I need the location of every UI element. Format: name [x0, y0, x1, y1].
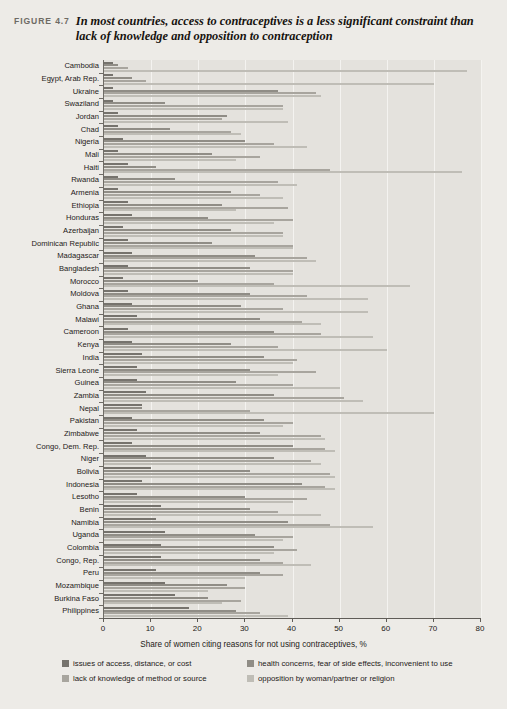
bar-knowledge: [104, 118, 222, 120]
bar-access: [104, 404, 142, 406]
gridline: [340, 60, 341, 618]
category-label: Bolivia: [77, 466, 99, 478]
x-axis-tick: [150, 618, 151, 622]
y-axis-tick: [99, 149, 103, 150]
category-label: Lesotho: [72, 491, 99, 503]
bar-access: [104, 353, 142, 355]
category-label: Indonesia: [66, 479, 99, 491]
figure-page: FIGURE 4.7 In most countries, access to …: [0, 0, 507, 709]
bar-knowledge: [104, 422, 293, 424]
bar-opposition: [104, 514, 321, 516]
bar-opposition: [104, 70, 467, 72]
bar-knowledge: [104, 473, 330, 475]
y-axis-tick: [99, 339, 103, 340]
bar-knowledge: [104, 105, 283, 107]
y-axis-tick: [99, 364, 103, 365]
bar-access: [104, 87, 113, 89]
category-label: Ethiopia: [72, 200, 99, 212]
bar-health: [104, 305, 241, 307]
bar-health: [104, 77, 132, 79]
figure-header: FIGURE 4.7 In most countries, access to …: [14, 14, 493, 44]
bar-access: [104, 265, 128, 267]
category-label: Kenya: [77, 339, 99, 351]
y-axis-tick: [99, 390, 103, 391]
bar-knowledge: [104, 346, 278, 348]
bar-knowledge: [104, 448, 325, 450]
bar-health: [104, 255, 255, 257]
category-label: Namibia: [71, 517, 99, 529]
bar-access: [104, 467, 151, 469]
category-label: Guinea: [75, 377, 100, 389]
x-axis-tick-label: 0: [101, 624, 105, 633]
category-label: Ukraine: [73, 86, 99, 98]
bar-access: [104, 290, 128, 292]
bar-access: [104, 505, 161, 507]
y-axis-tick: [99, 288, 103, 289]
x-axis-tick-label: 10: [146, 624, 155, 633]
bar-knowledge: [104, 283, 274, 285]
legend-swatch-opposition: [247, 675, 254, 682]
bar-opposition: [104, 222, 274, 224]
category-label: Philippines: [62, 605, 99, 617]
category-label: Malawi: [75, 314, 99, 326]
bar-knowledge: [104, 92, 316, 94]
x-axis-tick-label: 60: [381, 624, 390, 633]
bar-health: [104, 584, 227, 586]
y-axis-tick: [99, 555, 103, 556]
bar-opposition: [104, 159, 236, 161]
bar-health: [104, 331, 274, 333]
category-label: Ghana: [76, 301, 99, 313]
bar-opposition: [104, 463, 321, 465]
y-axis-tick: [99, 466, 103, 467]
bar-health: [104, 496, 245, 498]
bar-health: [104, 572, 260, 574]
y-axis-tick: [99, 314, 103, 315]
bar-access: [104, 74, 113, 76]
bar-health: [104, 534, 255, 536]
y-axis-tick: [99, 580, 103, 581]
y-axis-tick: [99, 440, 103, 441]
bar-opposition: [104, 400, 363, 402]
bar-access: [104, 188, 118, 190]
bar-knowledge: [104, 232, 283, 234]
bar-opposition: [104, 615, 288, 617]
bar-access: [104, 607, 189, 609]
y-axis-tick: [99, 567, 103, 568]
gridline: [293, 60, 294, 618]
bar-health: [104, 419, 264, 421]
bar-access: [104, 594, 175, 596]
bar-opposition: [104, 235, 283, 237]
category-label: Bangladesh: [59, 263, 99, 275]
category-label: Egypt, Arab Rep.: [42, 73, 99, 85]
bar-opposition: [104, 285, 410, 287]
bar-health: [104, 267, 250, 269]
bar-access: [104, 138, 123, 140]
x-axis-tick: [480, 618, 481, 622]
bar-opposition: [104, 133, 241, 135]
bar-knowledge: [104, 486, 325, 488]
bar-knowledge: [104, 524, 330, 526]
bar-health: [104, 432, 260, 434]
category-label: Madagascar: [57, 250, 99, 262]
y-axis-tick: [99, 402, 103, 403]
bar-knowledge: [104, 207, 288, 209]
bar-health: [104, 508, 250, 510]
category-label: Mozambique: [56, 580, 99, 592]
legend-swatch-access: [62, 660, 69, 667]
bar-opposition: [104, 336, 373, 338]
bar-access: [104, 366, 137, 368]
y-axis-tick: [99, 276, 103, 277]
bar-opposition: [104, 146, 307, 148]
legend-swatch-health: [247, 660, 254, 667]
bar-opposition: [104, 273, 293, 275]
bar-health: [104, 153, 212, 155]
category-label: Colombia: [67, 542, 99, 554]
y-axis-tick: [99, 529, 103, 530]
bar-health: [104, 280, 198, 282]
bar-access: [104, 277, 123, 279]
bar-health: [104, 178, 175, 180]
category-label: Swaziland: [64, 98, 99, 110]
y-axis-tick: [99, 85, 103, 86]
bar-access: [104, 480, 142, 482]
legend-item-access: issues of access, distance, or cost: [62, 659, 247, 668]
